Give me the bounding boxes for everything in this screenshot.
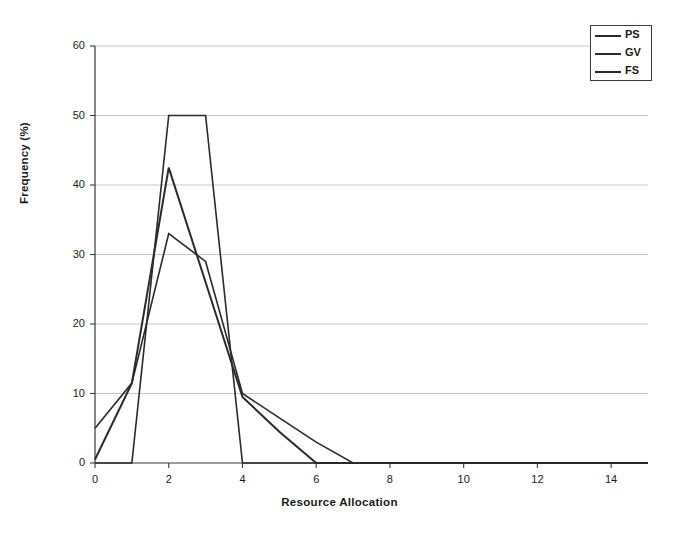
legend-label: GV: [625, 46, 641, 58]
x-axis-title: Resource Allocation: [0, 496, 679, 508]
y-tick-label: 50: [51, 109, 85, 121]
legend-line-icon: [595, 35, 621, 37]
legend-item-1: GV: [595, 46, 651, 62]
legend-label: FS: [625, 64, 639, 76]
legend: PS GV FS: [590, 25, 652, 81]
x-tick-label: 14: [596, 473, 626, 485]
x-tick-label: 6: [301, 473, 331, 485]
x-tick-label: 2: [154, 473, 184, 485]
y-axis-title: Frequency (%): [18, 24, 30, 204]
x-tick-label: 12: [522, 473, 552, 485]
chart-figure: Frequency (%) Resource Allocation 010203…: [0, 0, 679, 538]
y-tick-label: 20: [51, 317, 85, 329]
legend-label: PS: [625, 28, 640, 40]
legend-line-icon: [595, 71, 621, 73]
x-tick-label: 0: [80, 473, 110, 485]
grid-lines: [95, 46, 648, 394]
legend-item-0: PS: [595, 28, 651, 44]
x-tick-label: 8: [375, 473, 405, 485]
x-tick-label: 4: [227, 473, 257, 485]
legend-line-icon: [595, 53, 621, 55]
x-tick-label: 10: [449, 473, 479, 485]
y-tick-label: 60: [51, 39, 85, 51]
legend-item-2: FS: [595, 64, 651, 80]
y-tick-label: 40: [51, 178, 85, 190]
y-tick-label: 10: [51, 387, 85, 399]
data-series: [95, 116, 648, 464]
y-tick-label: 30: [51, 248, 85, 260]
y-tick-label: 0: [51, 456, 85, 468]
plot-area: [0, 0, 679, 538]
axis-ticks: [90, 46, 611, 468]
